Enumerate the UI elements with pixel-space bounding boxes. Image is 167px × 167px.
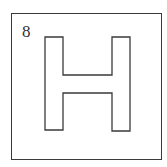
h-shape-icon — [0, 0, 167, 167]
